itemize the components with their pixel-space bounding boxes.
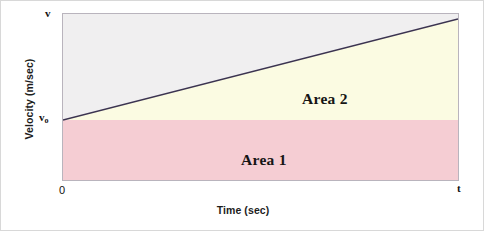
x-axis-title: Time (sec)	[1, 204, 484, 216]
plot-area: Area 2 Area 1	[62, 13, 459, 181]
y-tick-v-base: v	[39, 111, 45, 123]
y-tick-label-v-initial: vo	[39, 111, 49, 123]
y-axis-title: Velocity (m/sec)	[23, 24, 35, 174]
y-tick-v-subscript: o	[45, 116, 49, 125]
velocity-time-figure: Velocity (m/sec) v vo 0 t Area 2 Area 1 …	[0, 0, 484, 231]
x-tick-label-origin: 0	[59, 184, 65, 196]
y-tick-label-v: v	[45, 7, 51, 19]
x-tick-label-t: t	[457, 182, 461, 194]
region-area-1	[63, 120, 458, 180]
plot-svg	[63, 14, 458, 180]
